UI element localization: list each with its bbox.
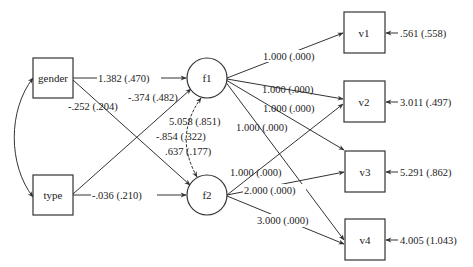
loading-label-f1-v2: 1.000 (.000): [262, 84, 314, 96]
covariance-arrow-gender-type: [14, 78, 33, 197]
loading-label-f2-v4: 3.000 (.000): [257, 215, 309, 227]
sem-path-diagram: gender type f1 f2 v1 v2 v3 v4 .561 (.558…: [0, 0, 473, 267]
indicator-v2: v2: [344, 81, 385, 122]
indicator-v3: v3: [345, 151, 385, 192]
indicator-v3-label: v3: [360, 166, 372, 178]
node-gender: gender: [33, 58, 73, 98]
node-gender-label: gender: [38, 72, 68, 84]
indicator-v2-label: v2: [359, 96, 370, 108]
residual-label-v1: .561 (.558): [400, 28, 447, 40]
node-type-label: type: [44, 189, 63, 201]
latent-f2-label: f2: [202, 189, 211, 201]
indicator-v4-label: v4: [360, 234, 372, 246]
indicator-v1-label: v1: [359, 27, 370, 39]
residual-label-v4: 4.005 (1.043): [400, 235, 457, 247]
residual-label-v2: 3.011 (.497): [400, 97, 452, 109]
loading-label-f2-v3: 2.000 (.000): [244, 185, 296, 197]
variance-label-f2: .637 (.177): [165, 146, 212, 158]
loading-label-f1-v4: 1.000 (.000): [236, 122, 288, 134]
residual-label-v3: 5.291 (.862): [400, 167, 452, 179]
latent-f2: f2: [187, 175, 227, 215]
path-label-gender-f1: 1.382 (.470): [98, 73, 150, 85]
loading-arrow-f2-v2: [227, 104, 343, 195]
loading-label-f1-v3: 1.000 (.000): [263, 103, 315, 115]
variance-label-f1: 5.058 (.851): [169, 116, 221, 128]
node-type: type: [33, 175, 73, 215]
path-label-gender-f2: -.252 (.204): [68, 101, 118, 113]
loading-label-f2-v2: 1.000 (.000): [230, 167, 282, 179]
indicator-v4: v4: [345, 219, 385, 260]
latent-f1: f1: [187, 58, 227, 98]
covariance-label-f1-f2: -.854 (.322): [156, 131, 206, 143]
path-label-type-f1: -.374 (.482): [128, 92, 178, 104]
indicator-v1: v1: [344, 12, 385, 53]
loading-label-f1-v1: 1.000 (.000): [263, 51, 315, 63]
latent-f1-label: f1: [202, 72, 211, 84]
path-label-type-f2: -.036 (.210): [92, 190, 142, 202]
